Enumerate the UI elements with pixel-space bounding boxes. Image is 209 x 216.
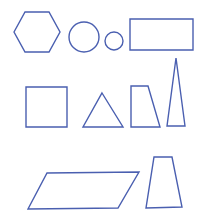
equilateral-triangle xyxy=(83,93,123,127)
right-trapezoid xyxy=(131,86,160,127)
isosceles-trapezoid xyxy=(146,157,182,208)
row-2 xyxy=(26,58,185,127)
square xyxy=(26,87,67,127)
tall-isosceles-triangle xyxy=(167,58,185,126)
parallelogram xyxy=(28,172,139,209)
large-circle xyxy=(69,22,99,52)
hexagon xyxy=(14,12,60,52)
row-3 xyxy=(28,157,182,209)
small-circle xyxy=(105,32,123,50)
rectangle xyxy=(130,19,193,50)
row-1 xyxy=(14,12,193,52)
shapes-canvas xyxy=(0,0,209,216)
